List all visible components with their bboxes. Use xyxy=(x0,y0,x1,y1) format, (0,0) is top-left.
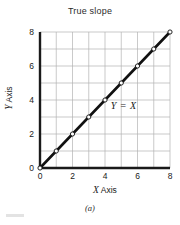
y-tick-label: 4 xyxy=(20,95,34,105)
chart-title: True slope xyxy=(0,6,180,16)
scan-artifact xyxy=(6,214,24,217)
y-axis-label-symbol: Y xyxy=(4,104,14,109)
x-tick-label: 2 xyxy=(70,171,75,181)
plot-area: Y = X xyxy=(40,32,170,168)
line-equation-annotation: Y = X xyxy=(111,100,137,111)
y-tick-label: 2 xyxy=(20,129,34,139)
figure-caption: (a) xyxy=(0,203,180,213)
figure-container: True slope Y = X 02468 02468 X Axis Y Ax… xyxy=(0,0,180,225)
y-axis-label: Y Axis xyxy=(4,68,14,128)
x-tick-label: 0 xyxy=(38,171,43,181)
y-tick-label: 8 xyxy=(20,27,34,37)
x-tick-label: 8 xyxy=(168,171,173,181)
y-axis-label-text: Axis xyxy=(4,86,14,104)
x-tick-label: 6 xyxy=(135,171,140,181)
x-axis-label: X Axis xyxy=(40,185,170,195)
plot-svg xyxy=(40,32,170,168)
x-tick-label: 4 xyxy=(103,171,108,181)
y-tick-label: 6 xyxy=(20,61,34,71)
y-tick-label: 0 xyxy=(20,163,34,173)
x-axis-label-text: Axis xyxy=(99,185,117,195)
